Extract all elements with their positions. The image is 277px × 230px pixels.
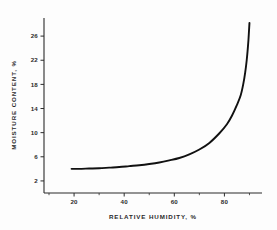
data-curve-moisture-isotherm	[72, 23, 250, 169]
chart-plot-area: 261014182226 20406080 RELATIVE HUMIDITY,…	[0, 0, 277, 230]
x-tick-label: 60	[171, 198, 179, 205]
x-axis-title: RELATIVE HUMIDITY, %	[109, 213, 197, 220]
y-tick-label: 26	[31, 32, 39, 39]
x-tick-label: 80	[221, 198, 229, 205]
chart-figure: 261014182226 20406080 RELATIVE HUMIDITY,…	[0, 0, 277, 230]
y-tick-label: 14	[31, 105, 39, 112]
y-tick-label: 22	[31, 56, 39, 63]
x-tick-label: 20	[70, 198, 78, 205]
y-tick-label: 10	[31, 129, 39, 136]
y-tick-label: 6	[34, 153, 38, 160]
axes-group	[44, 18, 262, 193]
y-axis-ticks: 261014182226	[31, 32, 44, 184]
x-tick-label: 40	[121, 198, 129, 205]
y-tick-label: 2	[34, 177, 38, 184]
y-tick-label: 18	[31, 81, 39, 88]
x-axis-ticks: 20406080	[49, 193, 249, 205]
y-axis-title: MOISTURE CONTENT, %	[10, 60, 17, 150]
